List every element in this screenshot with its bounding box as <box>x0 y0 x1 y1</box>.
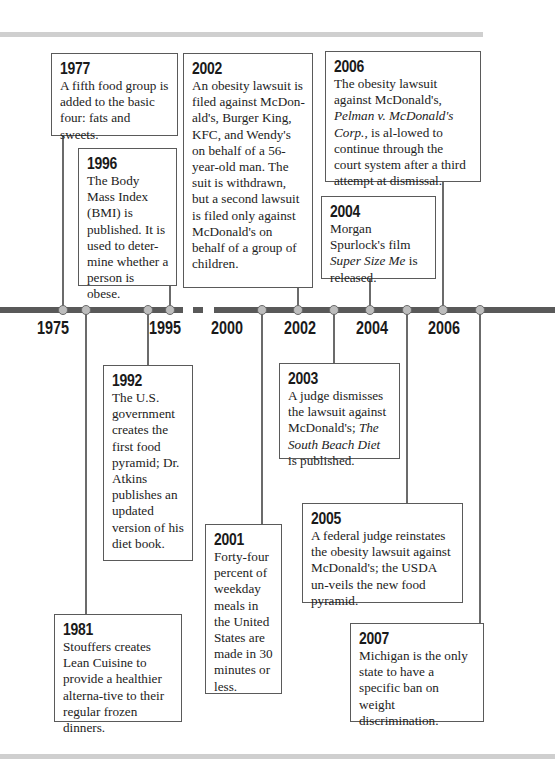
axis-label-2000: 2000 <box>211 318 243 339</box>
connector-2007 <box>479 312 481 624</box>
event-year: 2003 <box>288 370 373 388</box>
connector-1977 <box>62 135 64 308</box>
timeline-dot-1975 <box>58 305 68 315</box>
event-text-part: is published. <box>288 453 355 468</box>
event-box-2005: 2005 A federal judge reinstates the obes… <box>302 503 463 603</box>
event-box-2002: 2002 An obesity lawsuit is filed against… <box>183 53 313 288</box>
connector-1981 <box>85 312 87 615</box>
connector-2001 <box>261 312 263 524</box>
event-box-1977: 1977 A fifth food group is added to the … <box>51 53 178 136</box>
event-year: 1996 <box>87 155 154 173</box>
event-year: 2005 <box>311 510 429 528</box>
event-year: 2007 <box>359 630 455 648</box>
axis-label-1995: 1995 <box>149 318 181 339</box>
event-year: 2001 <box>214 531 263 549</box>
connector-2006 <box>442 180 444 308</box>
film-title-italic: Super Size Me <box>330 253 405 268</box>
connector-2003 <box>333 312 335 364</box>
event-text-part: Morgan Spurlock's film <box>330 221 410 252</box>
event-text: A judge dismisses the lawsuit against Mc… <box>288 388 392 469</box>
axis-label-2002: 2002 <box>284 318 316 339</box>
event-box-2006: 2006 The obesity lawsuit against McDonal… <box>325 51 481 182</box>
top-rule <box>0 32 483 37</box>
timeline-dot-2004 <box>365 305 375 315</box>
event-text: A federal judge reinstates the obesity l… <box>311 528 455 609</box>
event-text: Stouffers creates Lean Cuisine to provid… <box>63 639 174 736</box>
axis-label-2004: 2004 <box>356 318 388 339</box>
event-box-2003: 2003 A judge dismisses the lawsuit again… <box>279 363 400 459</box>
event-year: 1977 <box>60 60 150 78</box>
event-box-1981: 1981 Stouffers creates Lean Cuisine to p… <box>54 614 182 722</box>
event-text-part: The obesity lawsuit against McDonald's, <box>334 76 442 107</box>
connector-2005 <box>406 312 408 504</box>
timeline-dot-2002 <box>293 305 303 315</box>
event-text: The Body Mass Index (BMI) is published. … <box>87 173 169 303</box>
timeline-dot-2001 <box>257 305 267 315</box>
bottom-rule <box>0 754 555 759</box>
event-text: The obesity lawsuit against McDonald's, … <box>334 76 473 189</box>
event-text: A fifth food group is added to the basic… <box>60 78 170 143</box>
axis-label-1975: 1975 <box>37 318 69 339</box>
timeline-dot-1981 <box>81 305 91 315</box>
event-box-2007: 2007 Michigan is the only state to have … <box>350 623 484 722</box>
timeline-break-dash <box>193 307 203 313</box>
event-box-1996: 1996 The Body Mass Index (BMI) is publis… <box>78 148 177 286</box>
event-box-1992: 1992 The U.S. government creates the fir… <box>103 365 193 561</box>
event-year: 2006 <box>334 58 448 76</box>
event-year: 2004 <box>330 203 410 221</box>
timeline-dot-2007 <box>475 305 485 315</box>
axis-label-2006: 2006 <box>428 318 460 339</box>
timeline-dot-2006 <box>438 305 448 315</box>
event-text: An obesity lawsuit is filed against McDo… <box>192 78 305 272</box>
timeline-dot-1995 <box>165 305 175 315</box>
timeline-line-left <box>0 307 183 313</box>
event-box-2001: 2001 Forty-four percent of weekday meals… <box>205 524 282 694</box>
timeline-dot-2003 <box>329 305 339 315</box>
event-year: 1992 <box>112 372 172 390</box>
event-year: 1981 <box>63 621 154 639</box>
event-text: The U.S. government creates the first fo… <box>112 390 185 552</box>
event-text: Michigan is the only state to have a spe… <box>359 648 476 729</box>
event-year: 2002 <box>192 60 285 78</box>
event-text: Forty-four percent of weekday meals in t… <box>214 549 274 695</box>
event-text: Morgan Spurlock's film Super Size Me is … <box>330 221 428 286</box>
timeline-dot-1992 <box>143 305 153 315</box>
timeline-dot-2005 <box>402 305 412 315</box>
event-box-2004: 2004 Morgan Spurlock's film Super Size M… <box>321 196 436 279</box>
